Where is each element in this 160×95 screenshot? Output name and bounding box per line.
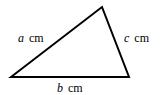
side-a-label: acm xyxy=(18,31,44,45)
side-b-label: bcm xyxy=(57,81,83,95)
side-c-label: ccm xyxy=(124,31,150,45)
triangle-diagram: acm bcm ccm xyxy=(0,0,160,95)
